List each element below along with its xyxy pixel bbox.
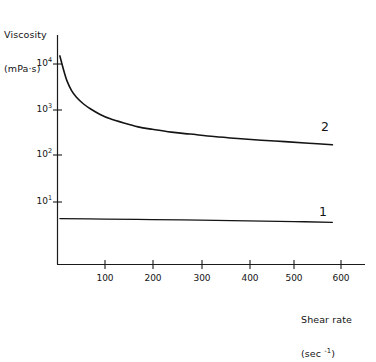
series-group: [60, 56, 333, 222]
x-axis-title-line2: (sec -1): [301, 348, 352, 359]
series-2-curve: [60, 56, 333, 145]
x-axis-unit-suffix: ): [331, 348, 335, 359]
x-axis-unit-prefix: (sec: [301, 348, 324, 359]
series-1-curve: [60, 219, 333, 223]
